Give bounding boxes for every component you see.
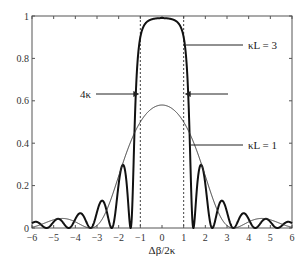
x-axis-label: Δβ/2κ [149, 244, 176, 256]
y-tick-label: 0.2 [17, 180, 30, 191]
x-tick-label: −4 [70, 232, 81, 243]
x-tick-label: 1 [181, 232, 186, 243]
x-tick-label: 2 [203, 232, 208, 243]
x-tick-label: 6 [290, 232, 295, 243]
x-tick-label: −5 [48, 232, 59, 243]
curve-kl-1 [32, 105, 292, 228]
series-label: κL = 3 [248, 39, 278, 51]
x-tick-label: 5 [268, 232, 273, 243]
x-tick-label: −2 [113, 232, 124, 243]
x-tick-label: −6 [27, 232, 38, 243]
y-tick-label: 1 [24, 11, 29, 22]
x-tick-label: −3 [92, 232, 103, 243]
series-label: κL = 1 [248, 139, 277, 151]
x-tick-label: 4 [246, 232, 251, 243]
x-tick-label: −1 [135, 232, 146, 243]
y-tick-label: 0.8 [17, 53, 30, 64]
y-tick-label: 0 [24, 223, 29, 234]
x-tick-label: 3 [225, 232, 230, 243]
y-tick-label: 0.6 [17, 95, 30, 106]
bandwidth-label: 4κ [80, 88, 92, 100]
reflectance-chart: −6−5−4−3−2−1012345600.20.40.60.81 κL = 3… [0, 0, 305, 269]
annotations: κL = 3κL = 14κ [80, 39, 278, 151]
x-tick-label: 0 [160, 232, 165, 243]
bandgap-dashed-lines [140, 16, 183, 228]
y-tick-label: 0.4 [17, 138, 30, 149]
